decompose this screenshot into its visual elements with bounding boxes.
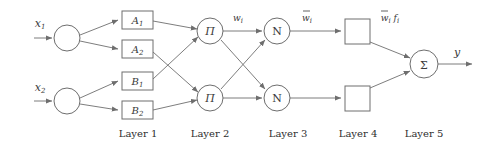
consequent-box-top[interactable] bbox=[345, 19, 370, 44]
svg-text:wi: wi bbox=[233, 13, 243, 25]
input-label-x1: x1 bbox=[35, 17, 46, 31]
edge-a1-to-pi-top bbox=[153, 21, 197, 29]
layer-caption-5: Layer 5 bbox=[405, 128, 444, 139]
consequent-box-bottom[interactable] bbox=[345, 86, 370, 111]
layer-caption-2: Layer 2 bbox=[191, 128, 230, 139]
edge-x2-to-b2 bbox=[80, 104, 118, 110]
svg-text:wi: wi bbox=[302, 13, 312, 25]
edge-x2-to-b1 bbox=[80, 81, 118, 98]
input-label-x2: x2 bbox=[35, 81, 46, 95]
normalization-node-label-bottom: N bbox=[272, 92, 282, 105]
edge-x1-to-a1 bbox=[80, 20, 118, 35]
summation-node-label: Σ bbox=[420, 59, 428, 72]
product-node-label-top: Π bbox=[204, 25, 215, 38]
output-label-y: y bbox=[453, 46, 461, 59]
edge-label-w-bar-i: wi bbox=[302, 11, 312, 25]
anfis-network-diagram: x1 x2 A1 A2 B1 B2 Π Π bbox=[0, 0, 482, 149]
edge-b2-to-pi-bottom bbox=[153, 100, 197, 110]
edge-square-bottom-to-sigma bbox=[370, 71, 410, 88]
svg-text:wi fi: wi fi bbox=[381, 13, 399, 25]
input-node-x2[interactable] bbox=[54, 88, 80, 114]
layer-caption-1: Layer 1 bbox=[119, 128, 158, 139]
layer-caption-4: Layer 4 bbox=[339, 128, 378, 139]
edge-label-w-bar-i-f-i: wi fi bbox=[381, 11, 399, 25]
edge-label-w-i: wi bbox=[233, 13, 243, 25]
normalization-node-label-top: N bbox=[272, 25, 282, 38]
layer-caption-3: Layer 3 bbox=[269, 128, 308, 139]
input-node-x1[interactable] bbox=[54, 25, 80, 51]
edge-square-top-to-sigma bbox=[370, 42, 410, 58]
edge-x1-to-a2 bbox=[80, 41, 118, 49]
product-node-label-bottom: Π bbox=[204, 92, 215, 105]
